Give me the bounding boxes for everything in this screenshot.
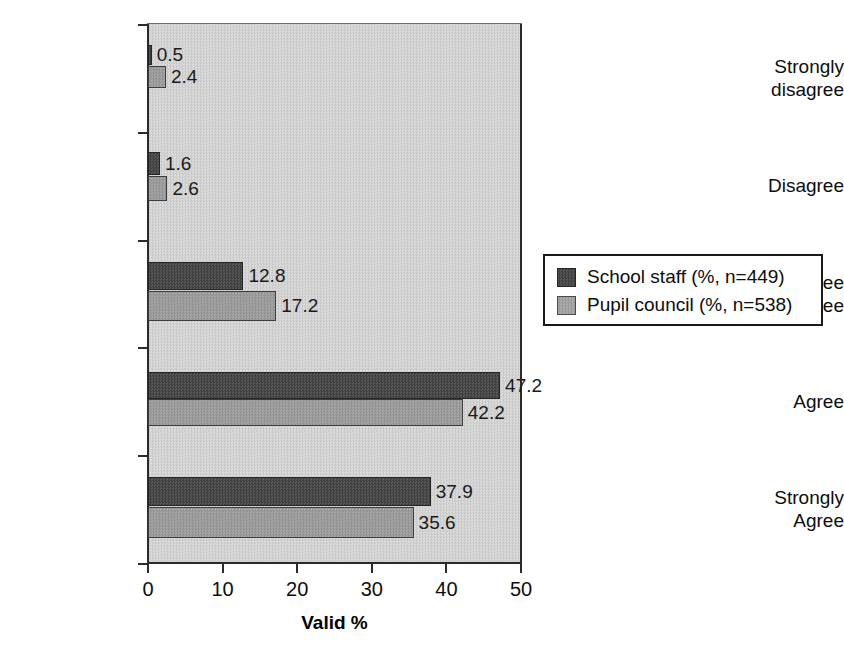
category-label-line: Disagree (712, 174, 844, 197)
category-label-1: Stronglydisagree (712, 55, 844, 101)
y-axis-tick (138, 240, 148, 242)
category-label-line: Agree (712, 509, 844, 532)
legend-label-1: School staff (%, n=449) (587, 266, 785, 288)
category-label-4: Agree (712, 390, 844, 413)
bar-value-pupil-5: 35.6 (419, 513, 456, 532)
x-axis-title: Valid % (148, 612, 521, 634)
y-axis-tick (138, 347, 148, 349)
bar-pupil-3 (148, 291, 276, 321)
legend-swatch-pupil (557, 296, 576, 315)
bar-chart: StronglydisagreeDisagreeDon’t agreeor di… (0, 0, 844, 653)
bar-pupil-5 (148, 507, 414, 538)
bar-staff-1 (148, 45, 152, 65)
x-axis-line (147, 562, 522, 564)
bar-value-staff-4: 47.2 (505, 376, 542, 395)
bar-value-staff-2: 1.6 (165, 154, 191, 173)
bar-staff-5 (148, 477, 431, 506)
legend-swatch-staff (557, 268, 576, 287)
plot-right-border (520, 24, 522, 564)
bar-pupil-2 (148, 176, 167, 201)
x-axis-tick-label: 10 (193, 578, 253, 600)
legend-label-2: Pupil council (%, n=538) (587, 294, 792, 316)
bar-pupil-4 (148, 399, 463, 426)
x-axis-tick (296, 563, 298, 573)
category-label-line: Strongly (712, 55, 844, 78)
x-axis-tick-label: 40 (416, 578, 476, 600)
bar-value-staff-5: 37.9 (436, 482, 473, 501)
x-axis-tick-label: 30 (342, 578, 402, 600)
y-axis-tick (138, 455, 148, 457)
x-axis-tick (371, 563, 373, 573)
bar-staff-3 (148, 262, 243, 290)
bar-value-pupil-1: 2.4 (171, 67, 197, 86)
x-axis-tick-label: 20 (267, 578, 327, 600)
y-axis-tick (138, 132, 148, 134)
bar-pupil-1 (148, 66, 166, 88)
bar-value-pupil-2: 2.6 (172, 179, 198, 198)
category-label-line: Strongly (712, 486, 844, 509)
legend-item-2: Pupil council (%, n=538) (557, 291, 821, 319)
bar-value-pupil-4: 42.2 (468, 403, 505, 422)
x-axis-tick (222, 563, 224, 573)
x-axis-tick (147, 563, 149, 573)
bar-staff-2 (148, 152, 160, 175)
x-axis-tick (445, 563, 447, 573)
x-axis-tick-label: 0 (118, 578, 178, 600)
category-label-5: StronglyAgree (712, 486, 844, 532)
category-label-2: Disagree (712, 174, 844, 197)
bar-staff-4 (148, 372, 500, 399)
legend-box: School staff (%, n=449)Pupil council (%,… (543, 254, 823, 326)
x-axis-tick-label: 50 (491, 578, 551, 600)
legend-item-1: School staff (%, n=449) (557, 263, 821, 291)
plot-top-border (147, 23, 522, 24)
category-label-line: disagree (712, 78, 844, 101)
y-axis-tick (138, 24, 148, 26)
bar-value-staff-1: 0.5 (157, 45, 183, 64)
x-axis-tick (520, 563, 522, 573)
bar-value-staff-3: 12.8 (248, 266, 285, 285)
category-label-line: Agree (712, 390, 844, 413)
bar-value-pupil-3: 17.2 (281, 296, 318, 315)
